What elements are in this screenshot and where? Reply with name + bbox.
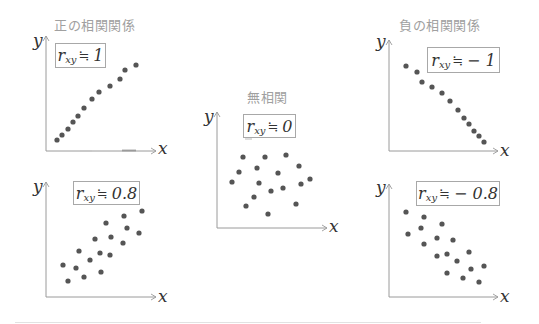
data-point [136, 230, 141, 235]
data-point [96, 89, 101, 94]
data-point [476, 133, 481, 138]
y-axis-label-positive-08: y [33, 176, 43, 196]
data-point [59, 132, 64, 137]
data-point [414, 69, 419, 74]
coefficient-value: 0.8 [112, 184, 137, 203]
coefficient-label-negative-1: rxy≒− 1 [427, 47, 500, 73]
x-axis-label-zero: x [329, 216, 339, 236]
data-point [124, 225, 129, 230]
data-point [481, 263, 486, 268]
coefficient-label-zero: rxy≒0 [243, 114, 296, 138]
data-point [461, 115, 466, 120]
data-point [120, 240, 125, 245]
data-point [81, 105, 86, 110]
data-point [65, 278, 70, 283]
coefficient-label-positive-08: rxy≒0.8 [73, 181, 140, 205]
data-point [450, 237, 455, 242]
data-point [268, 188, 273, 193]
data-point [117, 76, 122, 81]
r-symbol: r [76, 184, 84, 203]
data-point [298, 181, 303, 186]
data-point [121, 213, 126, 218]
data-point [439, 90, 444, 95]
data-point [447, 98, 452, 103]
r-subscript: xy [65, 54, 76, 65]
data-point [466, 249, 471, 254]
data-point [54, 137, 59, 142]
r-symbol: r [431, 51, 439, 70]
approx-symbol: ≒ [439, 186, 450, 201]
coefficient-value: − 1 [467, 51, 496, 70]
data-point [403, 209, 408, 214]
data-point [236, 169, 241, 174]
data-point [139, 208, 144, 213]
data-point [60, 262, 65, 267]
data-point [107, 83, 112, 88]
data-point [108, 234, 113, 239]
data-point [98, 269, 103, 274]
data-point [240, 154, 245, 159]
data-point [103, 220, 108, 225]
data-point [122, 67, 127, 72]
data-point [265, 211, 270, 216]
x-axis-label-negative-08: x [500, 286, 510, 306]
data-point [254, 165, 259, 170]
data-point [262, 154, 267, 159]
r-symbol: r [418, 184, 426, 203]
approx-symbol: ≒ [97, 186, 108, 201]
data-point [92, 236, 97, 241]
data-point [434, 235, 439, 240]
data-point [468, 266, 473, 271]
data-point [444, 251, 449, 256]
data-point [76, 248, 81, 253]
data-point [476, 279, 481, 284]
data-point [434, 253, 439, 258]
data-point [275, 170, 280, 175]
data-point [280, 185, 285, 190]
data-point [421, 214, 426, 219]
data-point [460, 275, 465, 280]
data-point [70, 119, 75, 124]
data-point [73, 265, 78, 270]
data-point [471, 128, 476, 133]
y-axis-label-negative-08: y [376, 177, 386, 197]
r-subscript: xy [254, 125, 265, 136]
data-point [307, 176, 312, 181]
data-point [419, 79, 424, 84]
data-point [75, 113, 80, 118]
data-point [97, 250, 102, 255]
data-point [251, 194, 256, 199]
data-point [243, 203, 248, 208]
data-point [296, 163, 301, 168]
x-axis-label-positive-08: x [158, 286, 168, 306]
data-point [444, 270, 449, 275]
data-point [87, 257, 92, 262]
data-point [256, 180, 261, 185]
coefficient-value: − 0.8 [454, 184, 498, 203]
data-point [466, 121, 471, 126]
y-axis-label-zero: y [204, 106, 214, 126]
coefficient-value: 0 [282, 117, 292, 136]
data-point [405, 231, 410, 236]
coefficient-value: 1 [93, 46, 103, 65]
coefficient-label-negative-08: rxy≒− 0.8 [416, 181, 500, 206]
data-point [65, 126, 70, 131]
approx-symbol: ≒ [452, 53, 463, 68]
data-point [421, 241, 426, 246]
approx-symbol: ≒ [267, 119, 278, 134]
data-point [481, 139, 486, 144]
coefficient-label-positive-1: rxy≒1 [55, 43, 106, 68]
data-point [107, 252, 112, 257]
data-point [418, 225, 423, 230]
data-point [229, 179, 234, 184]
data-point [293, 201, 298, 206]
x-axis-label-negative: x [500, 140, 510, 160]
data-point [133, 62, 138, 67]
approx-symbol: ≒ [78, 48, 89, 63]
r-subscript: xy [439, 59, 450, 70]
data-point [403, 63, 408, 68]
y-axis-label-negative: y [376, 31, 386, 51]
bottom-divider [15, 322, 481, 323]
r-subscript: xy [426, 192, 437, 203]
data-point [455, 107, 460, 112]
